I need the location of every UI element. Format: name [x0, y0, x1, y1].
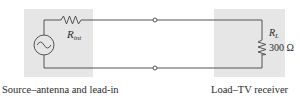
rl-value: 300 Ω: [269, 42, 294, 53]
rl-subscript: L: [275, 32, 279, 40]
circuit-diagram: Rint RL 300 Ω Source–antenna and lead-in…: [0, 0, 300, 99]
rl-label: RL 300 Ω: [269, 27, 294, 53]
rint-label: Rint: [67, 28, 81, 42]
source-caption: Source–antenna and lead-in: [2, 84, 119, 95]
terminal-bottom: [153, 66, 157, 70]
terminal-top: [153, 18, 157, 22]
rint-subscript: int: [74, 34, 81, 42]
rint-symbol: R: [67, 28, 74, 40]
load-caption: Load–TV receiver: [211, 84, 288, 95]
